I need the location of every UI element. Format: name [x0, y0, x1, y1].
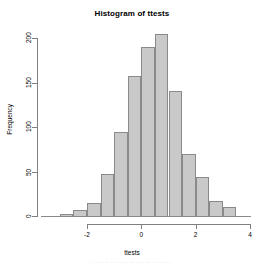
y-axis-tick: [32, 38, 37, 39]
bottom-cutoff-text: . .. .. .. . . .. ... .. . ... .. . . ..…: [0, 258, 264, 264]
histogram-bar: [155, 34, 169, 217]
y-axis-tick-label: 150: [26, 74, 33, 92]
x-axis-tick: [87, 224, 88, 229]
x-axis-tick-label: 2: [186, 231, 206, 238]
y-axis-tick-label: 200: [26, 29, 33, 47]
x-axis-tick-label: -2: [77, 231, 97, 238]
y-axis-line: [37, 38, 38, 217]
histogram-bar: [141, 47, 155, 217]
y-axis-tick-label: 50: [26, 163, 33, 181]
y-axis-tick: [32, 216, 37, 217]
plot-area: Frequency ttests 050100150200-2024: [0, 0, 264, 264]
x-axis-tick: [196, 224, 197, 229]
histogram-bar: [182, 154, 196, 217]
x-axis-tick: [141, 224, 142, 229]
histogram-bar: [101, 174, 115, 217]
x-axis-line: [87, 224, 251, 225]
x-axis-title: ttests: [0, 249, 264, 256]
y-axis-tick: [32, 127, 37, 128]
plot-baseline: [41, 216, 251, 217]
x-axis-tick: [250, 224, 251, 229]
histogram-bar: [87, 203, 101, 217]
histogram-bar: [209, 201, 223, 217]
histogram-bar: [196, 177, 210, 217]
x-axis-tick-label: 4: [240, 231, 260, 238]
histogram-bar: [114, 132, 128, 217]
histogram-screenshot: Histogram of ttests Frequency ttests 050…: [0, 0, 264, 264]
histogram-bar: [169, 91, 183, 217]
y-axis-title: Frequency: [6, 104, 13, 135]
x-axis-tick-label: 0: [131, 231, 151, 238]
y-axis-tick-label: 100: [26, 118, 33, 136]
y-axis-tick: [32, 83, 37, 84]
y-axis-tick: [32, 172, 37, 173]
y-axis-tick-label: 0: [26, 207, 33, 225]
histogram-bar: [128, 76, 142, 217]
